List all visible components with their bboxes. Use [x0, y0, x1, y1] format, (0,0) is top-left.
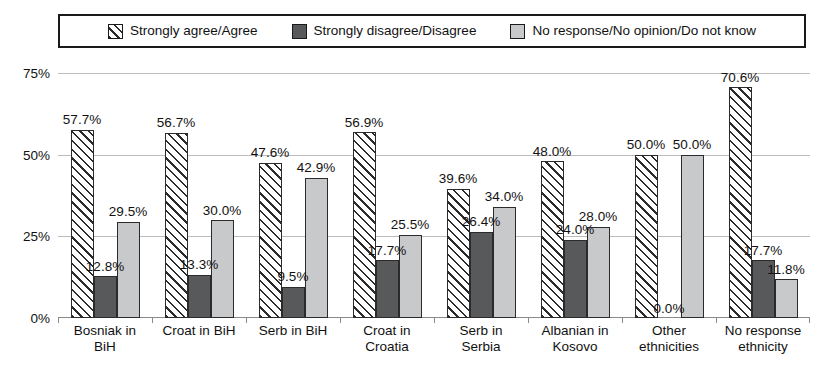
bar-3-0[interactable] [353, 132, 376, 318]
bar-7-2[interactable] [775, 279, 798, 318]
bar-2-1[interactable] [282, 287, 305, 318]
bar-0-0[interactable] [71, 130, 94, 318]
bar-slot: 24.0% [564, 73, 587, 318]
bar-value-label: 50.0% [627, 138, 665, 152]
bar-value-label: 56.7% [157, 116, 195, 130]
bar-group-3: 56.9%17.7%25.5% [340, 73, 434, 318]
y-axis-labels: 0%25%50%75% [0, 73, 50, 318]
x-category-label-1: Croat in BiH [152, 323, 246, 339]
bar-1-0[interactable] [165, 133, 188, 318]
bar-value-label: 29.5% [109, 205, 147, 219]
bar-value-label: 11.8% [767, 263, 804, 277]
bar-2-0[interactable] [259, 163, 282, 318]
legend-label-noresponse: No response/No opinion/Do not know [532, 24, 756, 38]
x-category-label-0: Bosniak in BiH [58, 323, 152, 355]
bar-slot: 0.0% [658, 73, 681, 318]
bar-1-1[interactable] [188, 275, 211, 318]
x-category-label-2: Serb in BiH [246, 323, 340, 339]
bar-value-label: 17.7% [744, 244, 782, 258]
bar-slot: 9.5% [282, 73, 305, 318]
bar-slot: 17.7% [376, 73, 399, 318]
bar-value-label: 47.6% [251, 146, 289, 160]
bar-group-5: 48.0%24.0%28.0% [528, 73, 622, 318]
bar-slot: 30.0% [211, 73, 234, 318]
bar-6-2[interactable] [681, 155, 704, 318]
bar-value-label: 48.0% [533, 145, 571, 159]
bar-value-label: 57.7% [63, 113, 101, 127]
bar-value-label: 26.4% [462, 215, 500, 229]
bar-slot: 17.7% [752, 73, 775, 318]
bar-5-0[interactable] [541, 161, 564, 318]
bar-group-4: 39.6%26.4%34.0% [434, 73, 528, 318]
bar-group-2: 47.6%9.5%42.9% [246, 73, 340, 318]
bar-group-7: 70.6%17.7%11.8% [716, 73, 810, 318]
x-category-label-6: Other ethnicities [622, 323, 716, 355]
x-category-label-5: Albanian in Kosovo [528, 323, 622, 355]
legend-label-disagree: Strongly disagree/Disagree [314, 24, 477, 38]
x-category-label-7: No response ethnicity [716, 323, 810, 355]
x-category-label-3: Croat in Croatia [340, 323, 434, 355]
bar-slot: 70.6% [729, 73, 752, 318]
bar-slot: 12.8% [94, 73, 117, 318]
bar-value-label: 13.3% [180, 258, 218, 272]
bar-value-label: 70.6% [721, 71, 759, 85]
bar-value-label: 50.0% [673, 138, 711, 152]
y-tick-label-0: 0% [30, 311, 50, 326]
light-gray-swatch-icon [510, 24, 525, 39]
bar-0-1[interactable] [94, 276, 117, 318]
bar-slot: 50.0% [681, 73, 704, 318]
legend-item-agree: Strongly agree/Agree [108, 24, 258, 39]
bar-slot: 50.0% [635, 73, 658, 318]
bar-value-label: 42.9% [297, 161, 335, 175]
bar-slot: 34.0% [493, 73, 516, 318]
bar-7-0[interactable] [729, 87, 752, 318]
bar-group-6: 50.0%0.0%50.0% [622, 73, 716, 318]
bar-4-0[interactable] [447, 189, 470, 318]
bar-value-label: 24.0% [556, 223, 594, 237]
bar-slot: 56.9% [353, 73, 376, 318]
plot-area: 57.7%12.8%29.5%56.7%13.3%30.0%47.6%9.5%4… [58, 73, 810, 318]
y-tick-label-75: 75% [23, 66, 50, 81]
bar-4-1[interactable] [470, 232, 493, 318]
bar-2-2[interactable] [305, 178, 328, 318]
bar-value-label: 25.5% [391, 218, 429, 232]
bar-value-label: 12.8% [86, 260, 124, 274]
legend-item-noresponse: No response/No opinion/Do not know [510, 24, 756, 39]
hatch-swatch-icon [108, 24, 123, 39]
bar-slot: 39.6% [447, 73, 470, 318]
bar-5-1[interactable] [564, 240, 587, 318]
x-category-label-4: Serb in Serbia [434, 323, 528, 355]
bar-slot: 25.5% [399, 73, 422, 318]
bar-value-label: 34.0% [485, 190, 523, 204]
bar-5-2[interactable] [587, 227, 610, 318]
bar-slot: 29.5% [117, 73, 140, 318]
bar-value-label: 9.5% [278, 270, 309, 284]
bar-value-label: 0.0% [654, 302, 685, 316]
bar-6-0[interactable] [635, 155, 658, 318]
bar-slot: 56.7% [165, 73, 188, 318]
bar-slot: 11.8% [775, 73, 798, 318]
bar-3-1[interactable] [376, 260, 399, 318]
bar-slot: 57.7% [71, 73, 94, 318]
y-tick-label-25: 25% [23, 229, 50, 244]
legend-label-agree: Strongly agree/Agree [130, 24, 258, 38]
y-tick-label-50: 50% [23, 147, 50, 162]
bar-slot: 48.0% [541, 73, 564, 318]
x-axis-category-labels: Bosniak in BiHCroat in BiHSerb in BiHCro… [58, 323, 810, 369]
bar-value-label: 17.7% [368, 244, 406, 258]
chart-legend: Strongly agree/Agree Strongly disagree/D… [58, 14, 806, 48]
bar-value-label: 30.0% [203, 204, 241, 218]
legend-item-disagree: Strongly disagree/Disagree [292, 24, 477, 39]
bar-value-label: 28.0% [579, 210, 617, 224]
bar-value-label: 56.9% [345, 116, 383, 130]
bar-group-0: 57.7%12.8%29.5% [58, 73, 152, 318]
bar-slot: 28.0% [587, 73, 610, 318]
dark-gray-swatch-icon [292, 24, 307, 39]
bar-slot: 13.3% [188, 73, 211, 318]
bar-value-label: 39.6% [439, 172, 477, 186]
bar-group-1: 56.7%13.3%30.0% [152, 73, 246, 318]
